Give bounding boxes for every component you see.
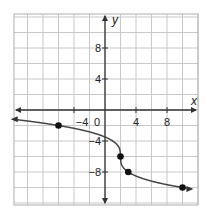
data-point bbox=[179, 184, 186, 191]
svg-text:0: 0 bbox=[94, 116, 100, 128]
data-point bbox=[55, 122, 62, 129]
axes bbox=[15, 15, 197, 204]
svg-text:−4: −4 bbox=[76, 116, 89, 128]
svg-text:4: 4 bbox=[95, 73, 101, 85]
svg-text:−4: −4 bbox=[88, 135, 101, 147]
function-graph: −44884−4−80xy bbox=[0, 0, 207, 218]
data-point bbox=[125, 169, 132, 176]
svg-text:x: x bbox=[190, 94, 198, 108]
tick-labels: −44884−4−80xy bbox=[76, 13, 198, 178]
svg-text:−8: −8 bbox=[88, 166, 101, 178]
data-point bbox=[117, 153, 124, 160]
svg-text:8: 8 bbox=[95, 42, 101, 54]
svg-text:y: y bbox=[111, 13, 119, 27]
svg-text:4: 4 bbox=[133, 116, 139, 128]
svg-text:8: 8 bbox=[164, 116, 170, 128]
